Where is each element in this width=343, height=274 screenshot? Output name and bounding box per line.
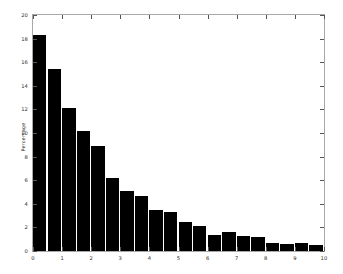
x-tick-label: 1 xyxy=(60,255,63,261)
bar xyxy=(179,222,192,252)
x-tick-mark-top xyxy=(208,15,209,19)
y-tick-mark-right xyxy=(320,227,324,228)
histogram-figure: Percentage 02468101214161820012345678910 xyxy=(0,0,343,274)
bar xyxy=(120,191,133,251)
y-tick-label: 8 xyxy=(25,154,28,160)
y-tick-label: 2 xyxy=(25,224,28,230)
bar xyxy=(266,243,279,251)
y-tick-mark xyxy=(33,109,37,110)
bar xyxy=(77,131,90,251)
x-tick-mark xyxy=(208,247,209,251)
y-tick-mark xyxy=(33,86,37,87)
y-tick-mark xyxy=(33,157,37,158)
bar xyxy=(280,244,293,251)
x-tick-label: 6 xyxy=(206,255,209,261)
x-tick-mark-top xyxy=(179,15,180,19)
x-tick-mark-top xyxy=(120,15,121,19)
x-tick-mark-top xyxy=(295,15,296,19)
y-tick-mark xyxy=(33,39,37,40)
bar xyxy=(91,146,104,251)
x-tick-label: 5 xyxy=(177,255,180,261)
y-tick-mark xyxy=(33,227,37,228)
bar xyxy=(135,196,148,251)
y-tick-label: 4 xyxy=(25,201,28,207)
plot-area: 02468101214161820012345678910 xyxy=(32,14,325,252)
x-tick-mark xyxy=(149,247,150,251)
x-tick-mark xyxy=(237,247,238,251)
bar xyxy=(208,235,221,251)
x-tick-mark xyxy=(266,247,267,251)
x-tick-label: 4 xyxy=(148,255,151,261)
bar xyxy=(62,108,75,251)
y-tick-mark-right xyxy=(320,39,324,40)
y-tick-mark-right xyxy=(320,180,324,181)
y-tick-mark xyxy=(33,251,37,252)
bar xyxy=(164,212,177,251)
y-tick-label: 10 xyxy=(21,130,28,136)
x-tick-mark-top xyxy=(324,15,325,19)
y-tick-label: 0 xyxy=(25,248,28,254)
x-tick-mark xyxy=(179,247,180,251)
x-tick-mark-top xyxy=(149,15,150,19)
bar xyxy=(237,236,250,251)
x-tick-label: 2 xyxy=(89,255,92,261)
y-tick-mark-right xyxy=(320,86,324,87)
x-tick-label: 10 xyxy=(321,255,328,261)
x-tick-mark xyxy=(91,247,92,251)
x-tick-mark-top xyxy=(33,15,34,19)
x-tick-mark-top xyxy=(91,15,92,19)
x-tick-mark xyxy=(62,247,63,251)
y-axis-title: Percentage xyxy=(21,123,26,152)
y-tick-mark-right xyxy=(320,204,324,205)
x-tick-mark-top xyxy=(237,15,238,19)
bar xyxy=(222,232,235,251)
bar xyxy=(295,243,308,251)
y-tick-label: 16 xyxy=(21,59,28,65)
bar xyxy=(251,237,264,251)
x-tick-mark xyxy=(324,247,325,251)
x-tick-mark-top xyxy=(266,15,267,19)
bars-layer xyxy=(33,15,324,251)
x-tick-label: 7 xyxy=(235,255,238,261)
x-tick-mark xyxy=(33,247,34,251)
y-tick-mark xyxy=(33,133,37,134)
x-tick-label: 9 xyxy=(293,255,296,261)
y-tick-mark-right xyxy=(320,62,324,63)
y-tick-mark-right xyxy=(320,133,324,134)
bar xyxy=(193,226,206,251)
x-tick-mark xyxy=(295,247,296,251)
y-tick-mark xyxy=(33,180,37,181)
y-tick-mark xyxy=(33,62,37,63)
x-tick-mark-top xyxy=(62,15,63,19)
bar xyxy=(33,35,46,251)
x-tick-label: 0 xyxy=(31,255,34,261)
bar xyxy=(106,178,119,251)
bar xyxy=(149,210,162,251)
y-tick-mark-right xyxy=(320,251,324,252)
y-tick-mark xyxy=(33,204,37,205)
bar xyxy=(48,69,61,251)
x-tick-label: 8 xyxy=(264,255,267,261)
y-tick-label: 18 xyxy=(21,36,28,42)
y-tick-label: 14 xyxy=(21,83,28,89)
y-tick-label: 12 xyxy=(21,106,28,112)
y-tick-mark-right xyxy=(320,157,324,158)
y-tick-mark-right xyxy=(320,109,324,110)
y-tick-label: 6 xyxy=(25,177,28,183)
x-tick-label: 3 xyxy=(119,255,122,261)
y-tick-label: 20 xyxy=(21,12,28,18)
x-tick-mark xyxy=(120,247,121,251)
